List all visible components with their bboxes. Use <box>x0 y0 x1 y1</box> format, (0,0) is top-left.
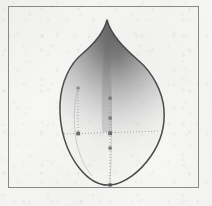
technical-figure-canvas <box>0 0 212 206</box>
control-point-axis-lower[interactable] <box>109 147 112 150</box>
control-point-axis-upper[interactable] <box>109 97 112 100</box>
control-point-axis-mid[interactable] <box>109 117 112 120</box>
control-point-left-upper[interactable] <box>77 87 80 90</box>
interior-gradient-vertical <box>55 15 170 190</box>
interior-shading-group <box>55 15 170 190</box>
control-point-left-waist[interactable] <box>76 132 80 136</box>
control-point-axis-center[interactable] <box>108 131 112 135</box>
figure-page <box>0 0 212 206</box>
